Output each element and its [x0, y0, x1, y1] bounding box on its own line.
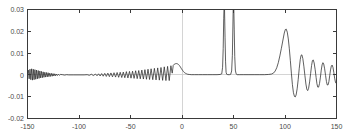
x-tick-label: 50 — [230, 123, 238, 130]
chart-figure: -150-100-50050100150 -0.02-0.0100.010.02… — [0, 0, 345, 140]
y-tick-label: 0.03 — [10, 6, 24, 13]
x-tick-label: -100 — [72, 123, 86, 130]
x-tick-label: 150 — [331, 123, 343, 130]
y-tick-label: 0 — [20, 72, 24, 79]
y-tick-label: 0.02 — [10, 28, 24, 35]
waveform-plot: -150-100-50050100150 -0.02-0.0100.010.02… — [0, 0, 345, 140]
y-tick-label: -0.01 — [8, 93, 24, 100]
y-tick-label: 0.01 — [10, 50, 24, 57]
x-tick-label: -50 — [125, 123, 135, 130]
x-tick-label: 0 — [180, 123, 184, 130]
x-tick-label: -150 — [20, 123, 34, 130]
x-tick-label: 100 — [279, 123, 291, 130]
y-tick-label: -0.02 — [8, 115, 24, 122]
